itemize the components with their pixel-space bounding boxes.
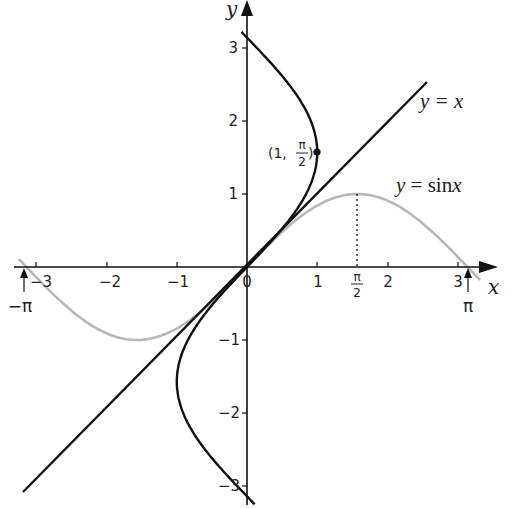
y-tick-label: 3: [228, 39, 238, 57]
pi-label: π: [463, 296, 473, 316]
plot-svg: −3 −2 −1 0 1 2 3 π 2 −π π 1 2 3 −1 −2 −3…: [0, 0, 514, 508]
x-tick-label: 2: [383, 273, 393, 291]
origin-label: 0: [242, 273, 252, 291]
x-tick-label: 1: [313, 273, 323, 291]
point-label-numerator: π: [298, 138, 305, 152]
y-tick-label: 2: [228, 112, 238, 130]
y-tick-label: −1: [218, 331, 240, 349]
x-axis-label: x: [488, 275, 499, 299]
x-tick-label: −3: [30, 273, 52, 291]
point-label-suffix: ): [308, 145, 313, 161]
neg-pi-arrow-icon: [20, 268, 28, 278]
point-marker: [313, 148, 320, 155]
x-tick-label: −2: [99, 273, 121, 291]
x-axis-arrow-icon: [479, 261, 498, 273]
y-tick-label: −3: [218, 477, 240, 495]
sine-curve-label: y = sinx: [394, 173, 462, 197]
neg-pi-label: −π: [8, 296, 32, 316]
identity-line: [23, 82, 427, 492]
x-tick-label: −1: [167, 273, 189, 291]
identity-line-label: y = x: [418, 89, 464, 113]
y-axis-arrow-icon: [241, 0, 253, 16]
y-axis-label: y: [225, 0, 238, 21]
point-label-denominator: 2: [298, 155, 306, 169]
diagram: −3 −2 −1 0 1 2 3 π 2 −π π 1 2 3 −1 −2 −3…: [0, 0, 514, 508]
y-tick-label: 1: [228, 185, 238, 203]
neg-pi-marker: [20, 268, 28, 292]
half-pi-numerator: π: [353, 270, 360, 284]
half-pi-denominator: 2: [353, 286, 361, 300]
y-tick-label: −2: [218, 404, 240, 422]
x-tick-label: 3: [453, 273, 463, 291]
point-label-prefix: (1,: [268, 145, 287, 161]
